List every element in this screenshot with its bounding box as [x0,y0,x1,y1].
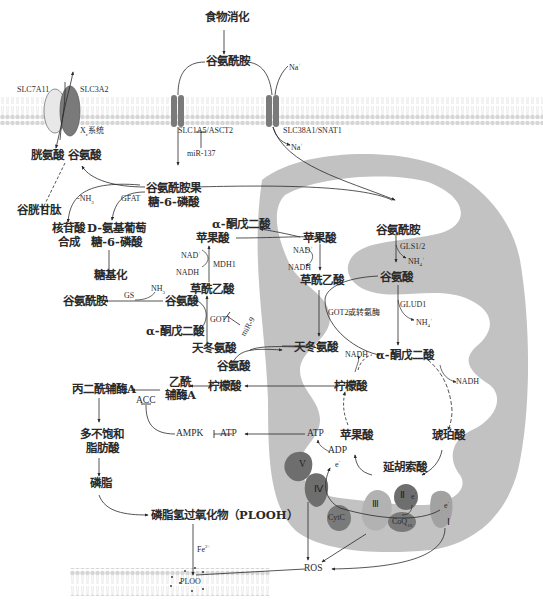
nadh-akg-label: NADH [345,351,368,359]
food-digestion-label: 食物消化 [205,12,249,24]
cytc-label: CytC [328,514,345,522]
aspartate-cyto-label: 天冬氨酸 [192,343,236,355]
nadh-cyto-label: NADH [176,269,199,277]
acc-label: ACC [136,396,156,406]
slc38a1-label: SLC38A1/SNAT1 [283,127,342,135]
fe2-label: Fe2+ [197,544,210,554]
pufa-label: 多不饱和脂肪酸 [80,427,124,455]
cystine-label: 胱氨酸 [31,150,64,162]
atp-cyto-label: ATP [220,429,237,439]
citrate-mito-label: 柠檬酸 [334,381,367,393]
slc7a11-label: SLC7A11 [17,86,49,94]
electron-label-2: e- [411,491,416,501]
complex-v-label: V [299,460,306,470]
nadh-tca-label: NADH [456,378,479,386]
ploo-label: PLOO [180,578,201,586]
malate-mito-label: 苹果酸 [303,233,336,245]
glutamine-mito-label: 谷氨酰胺 [376,225,420,237]
glutamate-low-label: 谷氨酸 [217,361,250,373]
aspartate-mito-label: 天冬氨酸 [294,342,338,354]
slc38a1-shape [266,95,272,127]
malonyl-coa-label: 丙二酰辅酶A [72,384,136,396]
nh3-gs-label: NH3 [151,285,165,295]
akg-mid-label: α-酮戊二酸 [146,326,204,338]
gls-label: GLS1/2 [400,243,425,251]
glutamine-f6p-label: 谷氨酰胺果糖-6-磷酸 [146,181,201,209]
succinate-label: 琥珀酸 [432,430,465,442]
gfat-label: GFAT [121,195,140,203]
malate-tca-label: 苹果酸 [340,430,373,442]
complex-ii-label: Ⅱ [400,491,405,501]
electron-label-1: e- [335,459,340,469]
slc1a5-shape [171,95,177,127]
na-in-label: Na+ [289,62,301,72]
glutamate-mid-label: 谷氨酸 [165,296,198,308]
na-out-label: Na+ [291,142,303,152]
glucosamine-6p-label: D-氨基葡萄糖-6-磷酸 [87,221,146,249]
akg-mito-label: α-酮戊二酸 [376,350,434,362]
glutamine-metabolism-diagram: 食物消化 谷氨酰胺 Na+ Na+ SLC7A11 SLC3A2 Xc系统 SL… [0,0,543,612]
atp-mito-label: ATP [307,429,324,439]
glycosylation-label: 糖基化 [94,270,127,282]
plooh-label: 磷脂氢过氧化物（PLOOH） [151,510,298,522]
malate-cyto-label: 苹果酸 [196,233,229,245]
got1-label: GOT1 [210,316,230,324]
gs-label: GS [124,292,134,300]
citrate-cyto-label: 柠檬酸 [208,381,241,393]
acetyl-coa-label: 乙酰辅酶A [165,376,196,402]
slc3a2-label: SLC3A2 [80,86,108,94]
extracellular-glutamine-label: 谷氨酰胺 [206,56,250,68]
glutathione-label: 谷胱甘肽 [17,205,61,217]
glutamate-mito-label: 谷氨酸 [380,272,413,284]
coq-label: CoQ10 [392,518,412,528]
ampk-label: AMPK [176,429,203,439]
slc1a5-label: SLC1A5/ASCT2 [178,127,233,135]
electron-label-3: e- [444,500,449,510]
mdh1-label: MDH1 [213,261,236,269]
adp-label: ADP [328,446,347,456]
complex-i-label: Ⅰ [447,518,450,528]
xc-system-label: Xc系统 [80,127,104,137]
slc3a2-shape [60,86,80,136]
nadh-mito-label: NADH [288,264,311,272]
nh4-1-label: NH4+ [408,256,425,267]
oaa-mito-label: 草酰乙酸 [300,275,344,287]
glutamate-top-label: 谷氨酸 [68,150,101,162]
plasma-membrane-top [0,97,290,125]
nh3-label: -NH3 [77,195,94,205]
complex-iii-label: Ⅲ [372,500,379,510]
mir137-label: miR-137 [187,150,215,158]
fumarate-label: 延胡索酸 [383,462,427,474]
nucleotide-synthesis-label: 核苷酸合成 [52,221,85,249]
ros-label: ROS [304,564,322,574]
nh4-2-label: NH4+ [416,317,433,328]
nad-mito-label: NAD+ [293,245,313,255]
glud1-label: GLUD1 [400,301,426,309]
phospholipid-label: 磷脂 [90,478,112,490]
nad-cyto-label: NAD+ [181,250,201,260]
got2-label: GOT2或转氨酶 [328,309,380,317]
akg-top-label: α-酮戊二酸 [212,219,270,231]
glutamine-gs-label: 谷氨酰胺 [63,296,107,308]
complex-iv-label: Ⅳ [314,485,323,495]
